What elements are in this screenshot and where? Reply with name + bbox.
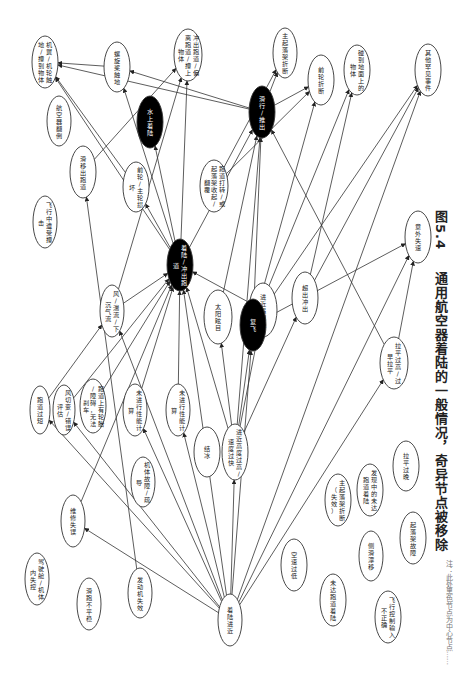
- node-label-char: 撞: [185, 62, 191, 69]
- node-label-char: 体: [350, 70, 357, 78]
- node-label-char: 飞: [46, 201, 52, 208]
- diagram-node: 空速过低: [281, 539, 307, 591]
- node-label-char: 上: [147, 115, 153, 122]
- diagram-node: 超出冲出: [292, 272, 318, 324]
- diagram-node: 机体故障/疏导: [131, 457, 155, 507]
- diagram-node: 拉平过晚: [393, 441, 419, 491]
- diagram-node: 滑跑不平稳: [77, 578, 101, 630]
- diagram-node: 未达跑道着陆: [320, 574, 346, 626]
- edge-arrow: [221, 343, 231, 425]
- node-label-char: 跑: [98, 385, 104, 392]
- diagram-node: 跑道上有轮胎/障碍，无法刹车: [80, 379, 106, 433]
- diagram-node: 飞行控制输入不正确: [375, 591, 401, 643]
- node-label-char: 估: [57, 410, 63, 418]
- node-label-char: 目: [215, 324, 221, 332]
- node-label-char: 移: [368, 563, 374, 571]
- node-label-char: 出: [302, 305, 308, 313]
- node-label-char: 跑: [86, 594, 92, 601]
- edge-arrow: [181, 81, 187, 239]
- diagram-node: 冲出跑道/偏离跑道/撞上物体: [174, 29, 202, 81]
- diagram-node: 结冰: [194, 427, 220, 477]
- node-label-char: 触: [46, 76, 52, 84]
- node-label-char: 计: [136, 424, 142, 432]
- edge-arrow: [271, 130, 384, 344]
- node-label-char: 断: [339, 514, 345, 522]
- node-label-char: 车: [83, 406, 89, 414]
- node-label-char: 地: [114, 78, 120, 85]
- node-label-char: 湍: [113, 304, 119, 311]
- edge-arrow: [310, 93, 351, 274]
- node-label-char: 近: [227, 627, 233, 635]
- edge-arrow: [254, 138, 261, 299]
- node-label-char: 跑: [363, 476, 369, 483]
- diagram-node: 未进行性能计算: [166, 384, 190, 436]
- node-label-char: 或: [219, 200, 225, 207]
- node-label-char: 击: [38, 219, 44, 227]
- diagram-node: 拉平过高/过早拉平: [380, 337, 408, 389]
- node-label-char: 跑: [330, 593, 336, 600]
- node-label-char: 晚: [403, 473, 409, 481]
- node-label-char: 撞: [46, 236, 52, 243]
- edge-arrow: [58, 63, 104, 66]
- node-label-char: 胎: [98, 420, 104, 428]
- node-label-char: 跑: [185, 41, 191, 48]
- node-label-char: 损: [137, 201, 143, 209]
- node-label-char: 上: [185, 69, 191, 76]
- node-label-char: 道: [173, 262, 179, 270]
- node-label-char: 断: [282, 67, 288, 75]
- diagram-node: 风切变/错误评估: [53, 385, 75, 435]
- node-label-char: 气: [105, 308, 111, 315]
- node-label-char: 滑: [259, 95, 265, 102]
- central-node: 着陆/冲出跑道: [167, 239, 193, 291]
- node-label-char: 稳: [86, 615, 92, 623]
- node-label-char: 下: [113, 325, 119, 333]
- diagram-node: 螺旋桨触地: [104, 42, 130, 92]
- diagram-node: 驾驶舱/机体内失控: [25, 553, 49, 605]
- node-label-char: 滑: [80, 155, 86, 162]
- diagram-node: 侧滑漂移: [359, 531, 383, 581]
- node-label-char: 低: [291, 572, 297, 580]
- node-label-char: 出: [259, 123, 265, 131]
- node-label-char: 障: [410, 549, 416, 557]
- node-label-char: 正: [381, 614, 387, 621]
- node-label-char: 偏: [193, 69, 199, 77]
- diagram-node: 维修失误: [61, 495, 85, 547]
- node-label-char: ）: [331, 507, 337, 514]
- central-node: 水上着陆: [137, 96, 163, 148]
- node-label-char: 入: [389, 631, 395, 638]
- diagram-node: 跑道打转/或起落架收起/翻覆: [200, 160, 228, 212]
- node-label-char: 件: [425, 84, 431, 92]
- node-label-char: 覆: [204, 186, 210, 193]
- node-label-char: 飞: [250, 325, 256, 332]
- node-label-char: 断: [318, 87, 324, 95]
- node-label-char: 流: [105, 315, 111, 323]
- edge-arrow: [275, 87, 309, 105]
- node-label-char: 效: [137, 604, 143, 612]
- diagram-node: 前轮折断: [308, 55, 334, 105]
- node-label-char: 上: [98, 399, 104, 406]
- diagram-node: 跑道过短: [30, 386, 50, 434]
- node-label-char: 倒: [56, 132, 62, 140]
- diagram-canvas: 机翼/机轮触地/撞到物体螺旋桨触地冲出跑道/偏离跑道/撞上物体航空器翻倒水上着陆…: [0, 0, 458, 674]
- node-label-char: 冰: [204, 452, 211, 459]
- node-label-char: 体: [178, 55, 185, 63]
- node-label-char: 陆: [330, 614, 336, 622]
- node-label-char: 跑: [193, 48, 199, 55]
- diagram-node: 滑移出跑道: [70, 146, 96, 198]
- node-label-char: 地: [358, 63, 364, 70]
- central-node: 复飞: [240, 299, 266, 351]
- diagram-node: 其他罕见事件: [415, 44, 441, 96]
- diagram-node: 主起落架折断: [273, 28, 297, 78]
- node-label-char: 撞: [38, 55, 44, 62]
- node-label-char: 主: [282, 32, 288, 39]
- node-label-char: 碰: [358, 49, 364, 56]
- node-label-char: 短: [37, 417, 43, 425]
- node-label-char: 体: [38, 593, 45, 601]
- edge-arrow: [264, 85, 418, 309]
- node-label-char: 控: [30, 583, 36, 591]
- diagram-node: 未进行性能计算: [123, 384, 147, 436]
- edge-arrow: [266, 244, 406, 319]
- node-label-char: 误: [65, 424, 71, 432]
- node-label-char: 滑: [368, 549, 374, 556]
- node-label-char: 陆: [147, 129, 153, 137]
